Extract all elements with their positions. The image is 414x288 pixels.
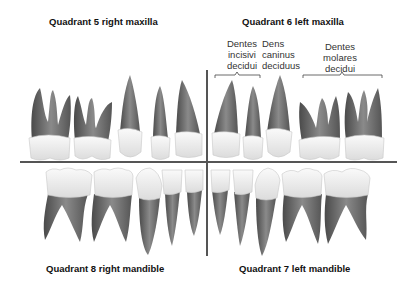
horizontal-divider (20, 161, 397, 163)
vertical-divider (206, 70, 208, 256)
lower-right-teeth (44, 168, 203, 255)
upper-left-teeth (212, 75, 384, 160)
upper-right-teeth (29, 75, 202, 160)
lower-left-teeth (211, 168, 370, 256)
